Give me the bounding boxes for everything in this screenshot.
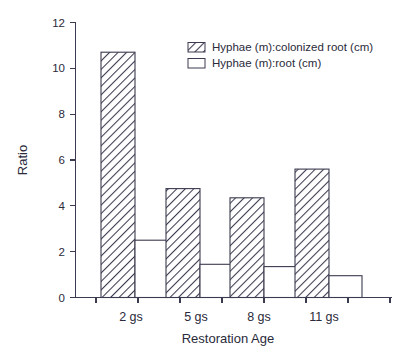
bars-group-5gs: [166, 189, 233, 298]
y-tick-label-6: 6: [59, 154, 65, 166]
y-tick-label-2: 2: [59, 246, 65, 258]
bars-group-8gs: [230, 198, 297, 298]
x-tick-label-2gs: 2 gs: [119, 310, 143, 324]
x-axis-ticks: [96, 298, 390, 304]
chart-canvas: 12 10 8 6 4 2 0 Ratio: [0, 0, 400, 355]
x-tick-label-5gs: 5 gs: [184, 310, 208, 324]
x-axis: 2 gs 5 gs 8 gs 11 gs Restoration Age: [76, 298, 393, 347]
legend-swatch-open: [188, 59, 205, 69]
y-tick-label-12: 12: [52, 17, 65, 29]
x-axis-tick-labels: 2 gs 5 gs 8 gs 11 gs: [119, 310, 339, 324]
y-tick-label-10: 10: [52, 62, 65, 74]
bar-hyphae-colonized-11gs: [295, 169, 329, 297]
y-axis-title: Ratio: [15, 145, 30, 175]
x-axis-title: Restoration Age: [182, 331, 275, 346]
bar-hyphae-colonized-5gs: [166, 189, 200, 298]
y-tick-label-4: 4: [59, 200, 66, 212]
legend: Hyphae (m):colonized root (cm) Hyphae (m…: [188, 41, 373, 69]
bars-group-11gs: [295, 169, 362, 297]
bar-hyphae-root-5gs: [200, 264, 233, 297]
bar-chart-figure: 12 10 8 6 4 2 0 Ratio: [0, 0, 400, 355]
y-tick-label-8: 8: [59, 108, 65, 120]
bars-group-2gs: [101, 52, 168, 297]
bar-hyphae-root-11gs: [329, 276, 362, 298]
y-tick-label-0: 0: [59, 292, 65, 304]
y-axis: 12 10 8 6 4 2 0 Ratio: [15, 17, 76, 304]
bar-hyphae-colonized-8gs: [230, 198, 264, 298]
x-tick-label-11gs: 11 gs: [309, 310, 339, 324]
bar-hyphae-root-2gs: [135, 240, 168, 297]
y-axis-ticks: [70, 23, 76, 298]
legend-label-root: Hyphae (m):root (cm): [212, 57, 321, 69]
bar-hyphae-root-8gs: [264, 267, 297, 298]
y-axis-tick-labels: 12 10 8 6 4 2 0: [52, 17, 65, 304]
x-tick-label-8gs: 8 gs: [247, 310, 271, 324]
legend-swatch-hatched: [188, 43, 205, 53]
legend-label-colonized: Hyphae (m):colonized root (cm): [212, 41, 373, 53]
bar-hyphae-colonized-2gs: [101, 52, 135, 297]
